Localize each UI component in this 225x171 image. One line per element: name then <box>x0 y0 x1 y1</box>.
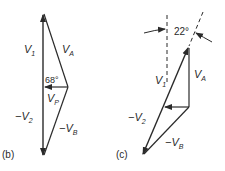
angle-arrow-left <box>144 29 165 33</box>
label-neg-vb: −VB <box>59 122 78 136</box>
vector-diagrams: V1 VA 68° VP −V2 −VB (b) 22° V1 VA −V2 −… <box>0 0 225 171</box>
label-b: (b) <box>2 149 14 160</box>
label-angle-68: 68° <box>45 75 59 85</box>
label-va: VA <box>194 68 206 82</box>
label-c: (c) <box>116 149 128 160</box>
label-neg-v2: −V2 <box>15 110 33 124</box>
label-neg-vb: −VB <box>165 136 184 150</box>
angle-arrow-right <box>196 33 212 42</box>
label-vp: VP <box>47 92 59 106</box>
diagram-b: V1 VA 68° VP −V2 −VB (b) <box>2 14 78 160</box>
diagram-c: 22° V1 VA −V2 −VB (c) <box>116 12 212 160</box>
label-v1: V1 <box>24 43 35 57</box>
label-angle-22: 22° <box>174 26 189 37</box>
neg-v2-vector <box>143 107 163 154</box>
label-va: VA <box>62 43 74 57</box>
label-v1: V1 <box>155 74 166 88</box>
v1-vector <box>163 48 188 107</box>
label-neg-v2: −V2 <box>128 111 146 125</box>
slant-reference-dashed <box>189 12 203 46</box>
